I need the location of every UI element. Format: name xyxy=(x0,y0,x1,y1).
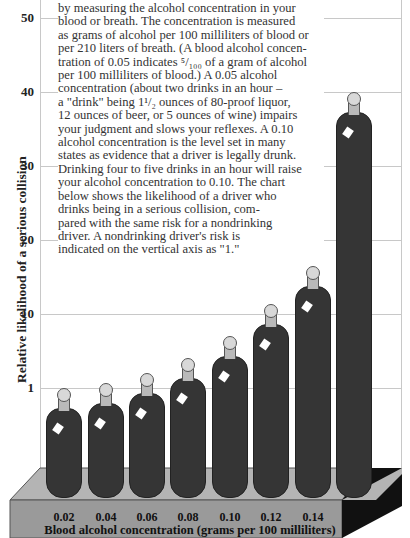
bottle-cap xyxy=(223,336,237,350)
bottle-body xyxy=(170,378,206,498)
bottle-cap xyxy=(264,304,278,318)
bottle-cap xyxy=(140,373,154,387)
bottle-bar-0.02 xyxy=(46,388,82,498)
bottle-bar-0.14 xyxy=(295,266,331,498)
bottle-body xyxy=(88,403,124,498)
bottle-cap xyxy=(99,383,113,397)
bottle-bar-0.12 xyxy=(253,304,289,498)
bottle-cap xyxy=(347,92,361,106)
bottle-body xyxy=(253,324,289,498)
bottle-bar-0.06 xyxy=(129,373,165,498)
bottle-cap xyxy=(57,388,71,402)
bottle-bar-0.10 xyxy=(212,336,248,498)
bottle-body xyxy=(295,286,331,498)
bottle-body xyxy=(129,393,165,498)
x-axis-label: Blood alcohol concentration (grams per 1… xyxy=(10,523,370,538)
bottle-bar-0.08 xyxy=(170,358,206,498)
bottle-body xyxy=(46,408,82,498)
bottle-cap xyxy=(306,266,320,280)
bottle-body xyxy=(336,112,372,498)
bottle-cap xyxy=(181,358,195,372)
bottle-bar-0.04 xyxy=(88,383,124,498)
bottle-bar-0.16 xyxy=(336,92,372,498)
